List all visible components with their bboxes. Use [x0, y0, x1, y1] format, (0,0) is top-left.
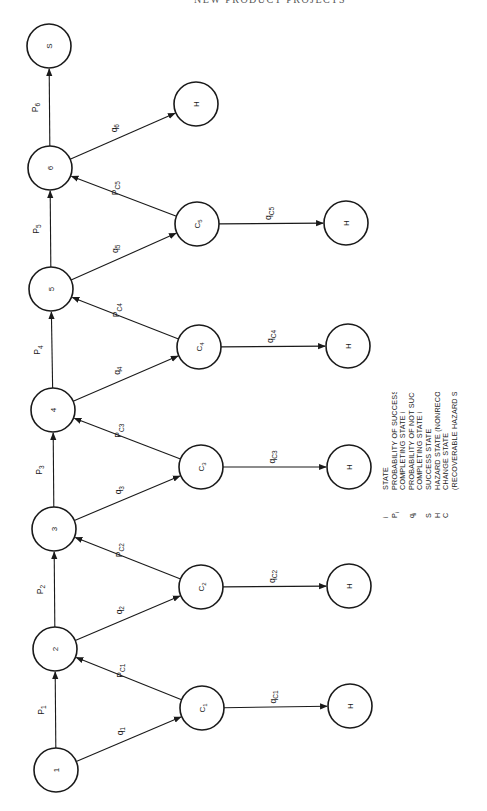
edge-label-p-c4: PC4: [111, 303, 123, 317]
edge-C4-to-H4: [221, 346, 325, 347]
node-change-c1: C1: [180, 686, 224, 730]
node-state-6: 6: [28, 146, 72, 190]
edge-3-to-C3: [74, 476, 180, 521]
node-label: H: [342, 220, 351, 226]
node-change-c3: C3: [179, 445, 223, 489]
edge-label-p-6: P6: [30, 102, 42, 112]
edge-5-to-C5: [71, 233, 176, 280]
edge-C1-to-H1: [224, 706, 327, 707]
edge-label-p-1: P1: [36, 705, 48, 715]
edge-C2-to-H2: [223, 586, 326, 587]
edge-label-p-3: P3: [34, 465, 46, 475]
edge-1-to-2: [55, 672, 56, 748]
edge-label-q-c4: qC4: [265, 330, 277, 343]
arrow-line: [49, 69, 50, 146]
edge-label-q-1: q1: [115, 727, 127, 736]
node-state-4: 4: [31, 388, 75, 432]
arrow-line: [76, 717, 181, 761]
legend-items: iSTATEPiPROBABILITY OF SUCCESSFULLYCOMPL…: [381, 392, 459, 518]
edge-4-to-5: [51, 312, 52, 388]
edge-C5-to-6: [71, 176, 176, 216]
node-state-2: 2: [33, 627, 77, 671]
edge-label-q-4: q4: [112, 366, 124, 375]
node-change-c4: C4: [177, 325, 221, 369]
edge-2-to-3: [54, 552, 55, 627]
node-state-5: 5: [29, 267, 73, 311]
node-label: S: [45, 43, 54, 48]
legend-description: (RECOVERABLE HAZARD STATE): [450, 392, 459, 490]
arrow-line: [76, 658, 181, 700]
edge-6-to-S: [49, 69, 50, 146]
arrow-line: [55, 672, 56, 748]
node-label: 1: [52, 767, 61, 772]
arrow-line: [53, 433, 54, 507]
arrow-line: [221, 346, 325, 347]
edge-label-q-c5: qC5: [263, 207, 275, 220]
arrow-line: [50, 191, 51, 267]
arrow-line: [219, 223, 323, 224]
legend-row: (RECOVERABLE HAZARD STATE): [450, 392, 459, 490]
edge-C1-to-2: [76, 658, 181, 700]
edge-2-to-C2: [75, 596, 180, 640]
node-success-s: S: [27, 24, 71, 68]
node-label: 4: [49, 407, 58, 412]
node-label: H: [345, 464, 354, 470]
node-state-3: 3: [32, 507, 76, 551]
edge-label-q-3: q3: [113, 486, 125, 495]
nodes-layer: 123456SC1C2C3C4C5HHHHHH: [27, 24, 372, 792]
arrow-line: [71, 176, 176, 216]
edge-label-p-4: P4: [32, 345, 44, 355]
arrow-line: [74, 476, 180, 521]
edge-5-to-6: [50, 191, 51, 267]
edge-label-q-c2: qC2: [267, 570, 279, 583]
arrow-line: [54, 552, 55, 627]
edge-6-to-H6: [70, 113, 175, 159]
arrow-line: [75, 537, 180, 578]
node-label: 2: [51, 646, 60, 651]
edge-label-q-6: q6: [109, 124, 121, 133]
node-label: H: [345, 583, 354, 589]
node-state-1: 1: [34, 748, 78, 792]
node-change-c5: C5: [175, 202, 219, 246]
edge-label-p-c3: PC3: [113, 423, 125, 437]
arrow-line: [75, 596, 180, 640]
edge-4-to-C4: [73, 356, 178, 401]
edge-C4-to-5: [72, 297, 178, 339]
edge-label-p-c1: PC1: [115, 663, 127, 677]
edge-label-p-c5: PC5: [110, 181, 122, 195]
node-change-c2: C2: [179, 565, 223, 609]
node-hazard-h4: H: [326, 324, 370, 368]
edge-C3-to-4: [74, 418, 180, 459]
node-label: 5: [47, 286, 56, 291]
edge-label-q-5: q5: [110, 244, 122, 253]
arrow-line: [71, 233, 176, 280]
node-hazard-h6: H: [174, 82, 218, 126]
arrow-line: [224, 706, 327, 707]
legend-symbol: Pi: [390, 512, 400, 518]
edge-label-p-2: P2: [35, 584, 47, 594]
edge-label-q-c1: qC1: [268, 690, 280, 703]
arrow-line: [73, 356, 178, 401]
edge-3-to-4: [53, 433, 54, 507]
node-hazard-h2: H: [327, 564, 371, 608]
arrow-line: [72, 297, 178, 339]
node-label: H: [344, 343, 353, 349]
edge-label-q-2: q2: [114, 606, 126, 615]
edge-C5-to-H5: [219, 223, 323, 224]
node-label: 3: [50, 526, 59, 531]
legend-symbol: C: [441, 513, 450, 518]
arrow-line: [51, 312, 52, 388]
edges-layer: [49, 69, 327, 761]
node-hazard-h1: H: [328, 684, 372, 728]
edge-label-p-c2: PC2: [114, 543, 126, 557]
node-label: 6: [46, 165, 55, 170]
edge-label-q-c3: qC3: [267, 450, 279, 463]
node-label: H: [346, 703, 355, 709]
arrow-line: [74, 418, 180, 459]
node-hazard-h3: H: [327, 445, 371, 489]
edge-label-p-5: P5: [31, 224, 43, 234]
legend: iSTATEPiPROBABILITY OF SUCCESSFULLYCOMPL…: [380, 392, 480, 522]
node-label: H: [192, 101, 201, 107]
edge-1-to-C1: [76, 717, 181, 761]
legend-symbol: qi: [407, 512, 417, 518]
